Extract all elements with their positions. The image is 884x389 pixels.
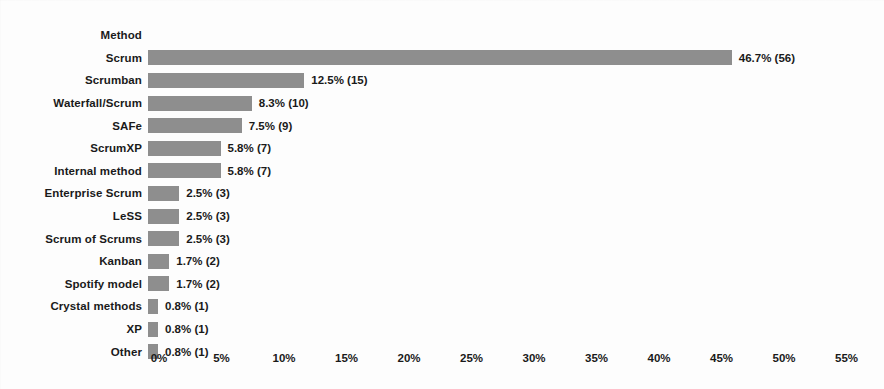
bar-row: LeSS2.5% (3) <box>0 205 884 228</box>
header-bar-area <box>148 24 884 47</box>
bar-row: Waterfall/Scrum8.3% (10) <box>0 92 884 115</box>
bar-area: 2.5% (3) <box>148 205 884 228</box>
bar-row: XP0.8% (1) <box>0 318 884 341</box>
bar-row: Kanban1.7% (2) <box>0 250 884 273</box>
bar-data-label: 0.8% (1) <box>165 300 208 312</box>
bar-area: 2.5% (3) <box>148 182 884 205</box>
bar-area: 8.3% (10) <box>148 92 884 115</box>
bar-data-label: 1.7% (2) <box>176 278 219 290</box>
x-axis-tick-label: 50% <box>772 352 795 364</box>
bar <box>148 276 169 291</box>
bar-row: Scrumban12.5% (15) <box>0 69 884 92</box>
bar-area: 46.7% (56) <box>148 47 884 70</box>
bar <box>148 50 732 65</box>
y-axis-title: Method <box>0 29 148 41</box>
bar-area: 5.8% (7) <box>148 160 884 183</box>
category-label: Scrum <box>0 52 148 64</box>
category-label: XP <box>0 323 148 335</box>
category-label: Spotify model <box>0 278 148 290</box>
bar-data-label: 12.5% (15) <box>311 74 367 86</box>
bar <box>148 209 179 224</box>
bar <box>148 254 169 269</box>
category-label: ScrumXP <box>0 142 148 154</box>
bar-data-label: 7.5% (9) <box>249 120 292 132</box>
bar-row: Enterprise Scrum2.5% (3) <box>0 182 884 205</box>
x-axis-tick-label: 30% <box>522 352 545 364</box>
bar-data-label: 2.5% (3) <box>186 233 229 245</box>
bar <box>148 73 304 88</box>
bar-data-label: 2.5% (3) <box>186 210 229 222</box>
category-label: LeSS <box>0 210 148 222</box>
bar-data-label: 5.8% (7) <box>228 142 271 154</box>
bar-row: Internal method5.8% (7) <box>0 160 884 183</box>
bar-data-label: 0.8% (1) <box>165 323 208 335</box>
category-label: Crystal methods <box>0 300 148 312</box>
x-axis-tick-label: 0% <box>151 352 168 364</box>
bar-data-label: 5.8% (7) <box>228 165 271 177</box>
bar-area: 7.5% (9) <box>148 114 884 137</box>
bar-row: SAFe7.5% (9) <box>0 114 884 137</box>
x-axis-tick-label: 45% <box>710 352 733 364</box>
x-axis-tick-label: 35% <box>585 352 608 364</box>
category-label: Other <box>0 346 148 358</box>
category-label: Kanban <box>0 255 148 267</box>
bar <box>148 141 221 156</box>
bar <box>148 186 179 201</box>
bar <box>148 118 242 133</box>
bar-data-label: 2.5% (3) <box>186 187 229 199</box>
bar-area: 1.7% (2) <box>148 273 884 296</box>
horizontal-bar-chart: MethodScrum46.7% (56)Scrumban12.5% (15)W… <box>0 0 884 389</box>
x-axis-tick-label: 15% <box>335 352 358 364</box>
bar-rows: MethodScrum46.7% (56)Scrumban12.5% (15)W… <box>0 24 884 363</box>
x-axis-tick-label: 5% <box>213 352 230 364</box>
category-label: Waterfall/Scrum <box>0 97 148 109</box>
x-axis-tick-label: 25% <box>460 352 483 364</box>
category-label: Enterprise Scrum <box>0 187 148 199</box>
bar-area: 1.7% (2) <box>148 250 884 273</box>
bar <box>148 322 158 337</box>
bar <box>148 163 221 178</box>
bar-data-label: 1.7% (2) <box>176 255 219 267</box>
bar <box>148 96 252 111</box>
bar <box>148 231 179 246</box>
axis-header-row: Method <box>0 24 884 47</box>
category-label: SAFe <box>0 120 148 132</box>
bar-area: 0.8% (1) <box>148 295 884 318</box>
category-label: Internal method <box>0 165 148 177</box>
x-axis-tick-label: 40% <box>647 352 670 364</box>
category-label: Scrumban <box>0 74 148 86</box>
x-axis: 0%5%10%15%20%25%30%35%40%45%50%55% <box>153 352 853 372</box>
bar-area: 12.5% (15) <box>148 69 884 92</box>
bar <box>148 299 158 314</box>
bar-row: ScrumXP5.8% (7) <box>0 137 884 160</box>
x-axis-tick-label: 10% <box>272 352 295 364</box>
category-label: Scrum of Scrums <box>0 233 148 245</box>
bar-data-label: 46.7% (56) <box>739 52 795 64</box>
bar-row: Crystal methods0.8% (1) <box>0 295 884 318</box>
bar-area: 2.5% (3) <box>148 227 884 250</box>
x-axis-tick-label: 55% <box>835 352 858 364</box>
bar-row: Scrum46.7% (56) <box>0 47 884 70</box>
bar-area: 5.8% (7) <box>148 137 884 160</box>
bar-data-label: 8.3% (10) <box>259 97 309 109</box>
bar-area: 0.8% (1) <box>148 318 884 341</box>
bar-row: Scrum of Scrums2.5% (3) <box>0 227 884 250</box>
bar-row: Spotify model1.7% (2) <box>0 273 884 296</box>
x-axis-tick-label: 20% <box>397 352 420 364</box>
